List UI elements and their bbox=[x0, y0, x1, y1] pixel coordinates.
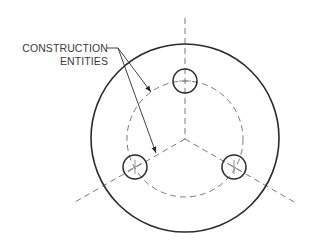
callout-leaders bbox=[107, 48, 156, 153]
center-lines bbox=[75, 18, 296, 203]
holes bbox=[123, 69, 246, 179]
leader-to-bolt-circle bbox=[118, 48, 151, 92]
leader-to-hole bbox=[118, 48, 156, 153]
drawing-canvas bbox=[0, 0, 309, 247]
